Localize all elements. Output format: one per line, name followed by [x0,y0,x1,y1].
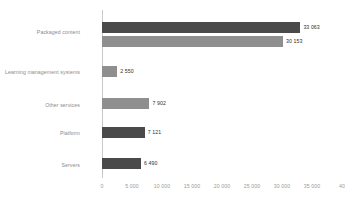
category-label-other-services: Other services [0,102,80,109]
x-tick-label: 35 000 [304,183,320,189]
bar-servers-5 [102,158,141,169]
x-tick-label: 10 000 [154,183,170,189]
x-tick-label: 0 [101,183,104,189]
bar-learning-management-systems-2 [102,66,117,77]
bar-value-label: 30 153 [286,36,302,47]
x-axis-ticks: 05 00010 00015 00020 00025 00030 00035 0… [102,183,354,195]
x-tick-label: 15 000 [184,183,200,189]
bar-value-label: 7 902 [152,98,165,109]
bar-platform-4 [102,127,145,138]
x-tick-label: 40 [339,183,345,189]
bar-packaged-content-0 [102,22,300,33]
bar-other-services-3 [102,98,149,109]
bar-chart: 33 06330 1532 5507 9027 1216 490Packaged… [0,0,358,202]
x-tick-label: 20 000 [214,183,230,189]
bar-value-label: 7 121 [148,127,161,138]
x-tick-label: 25 000 [244,183,260,189]
category-label-servers: Servers [0,162,80,169]
bar-value-label: 6 490 [144,158,157,169]
category-label-platform: Platform [0,130,80,137]
x-tick-label: 5 000 [125,183,138,189]
category-label-packaged-content: Packaged content [0,29,80,36]
category-label-learning-management-systems: Learning management systems [0,69,80,76]
bar-value-label: 33 063 [303,22,319,33]
x-tick-label: 30 000 [274,183,290,189]
plot-area: 33 06330 1532 5507 9027 1216 490Packaged… [102,10,342,178]
bar-value-label: 2 550 [120,66,133,77]
bar-packaged-content-1 [102,36,283,47]
